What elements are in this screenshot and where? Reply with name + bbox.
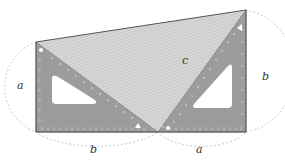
label-c: c [182, 54, 188, 67]
pythagoras-set-squares-diagram: a b a b c [0, 0, 285, 166]
label-right-b: b [262, 70, 269, 83]
right-set-square-hole [166, 126, 170, 130]
label-left-a: a [17, 79, 24, 92]
left-set-square-hole [39, 48, 43, 52]
label-bottom-a: a [196, 143, 203, 156]
label-bottom-b: b [90, 143, 97, 156]
